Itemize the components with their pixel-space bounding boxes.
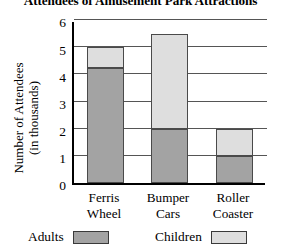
bar-segment-bumper-cars-adults[interactable]: [151, 129, 188, 183]
legend-label-children: Children: [155, 229, 202, 245]
y-tick-label-4: 4: [52, 71, 66, 85]
bar-segment-roller-coaster-children[interactable]: [216, 129, 253, 156]
bar-segment-ferris-wheel-children[interactable]: [87, 47, 124, 67]
y-tick-label-1: 1: [52, 152, 66, 166]
gridline-6: [74, 19, 267, 20]
y-tick-label-6: 6: [52, 16, 66, 30]
x-tick-label-roller-coaster: Roller Coaster: [191, 190, 275, 221]
chart-legend: Adults Children: [0, 227, 281, 249]
x-tick-roller-coaster-line-1: Roller: [191, 190, 275, 206]
y-tick-label-5: 5: [52, 44, 66, 58]
bar-segment-bumper-cars-children[interactable]: [151, 34, 188, 129]
bar-segment-ferris-wheel-adults[interactable]: [87, 68, 124, 184]
legend-label-adults: Adults: [28, 229, 64, 245]
plot-area: [72, 22, 265, 185]
x-tick-roller-coaster-line-2: Coaster: [191, 206, 275, 222]
y-tick-label-3: 3: [52, 98, 66, 112]
legend-swatch-adults: [73, 231, 109, 244]
y-axis-title-line-2: (in thousands): [26, 36, 41, 201]
bar-segment-roller-coaster-adults[interactable]: [216, 156, 253, 183]
y-axis-title: Number of Attendees (in thousands): [11, 36, 41, 201]
y-tick-label-2: 2: [52, 125, 66, 139]
legend-swatch-children: [211, 231, 247, 244]
legend-entry-children[interactable]: Children: [155, 227, 247, 247]
legend-entry-adults[interactable]: Adults: [28, 227, 109, 247]
chart-title: Attendees of Amusement Park Attractions: [0, 0, 281, 9]
y-axis-title-line-1: Number of Attendees: [11, 36, 26, 201]
